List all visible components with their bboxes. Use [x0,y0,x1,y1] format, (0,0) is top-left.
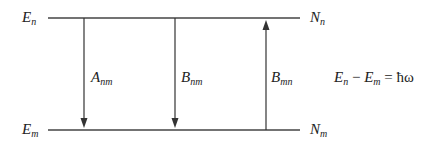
lower-energy-label: Em [22,122,38,139]
energy-equation: En − Em = ħω [334,69,414,87]
arrow-b-mn [263,20,270,130]
transition-label-b-mn: Bmn [271,70,292,87]
transition-label-b-nm: Bnm [181,70,202,87]
arrow-a-nm [81,18,88,128]
lower-population-label: Nm [310,122,327,139]
upper-energy-label: En [22,10,36,27]
upper-population-label: Nn [310,10,325,27]
arrow-b-nm [172,18,179,128]
transition-label-a-nm: Anm [91,70,112,87]
